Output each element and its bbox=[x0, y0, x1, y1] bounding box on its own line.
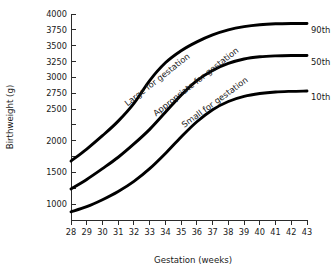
end-label-50th: 50th bbox=[311, 57, 330, 67]
end-label-90th: 90th bbox=[311, 25, 330, 35]
x-tick-label-31: 31 bbox=[113, 227, 123, 237]
x-axis-tick-labels: 28293031323334353637383940414243 bbox=[66, 227, 312, 237]
x-tick-label-35: 35 bbox=[176, 227, 186, 237]
x-tick-label-32: 32 bbox=[129, 227, 139, 237]
y-tick-label-1500: 1500 bbox=[46, 167, 67, 177]
y-tick-label-2750: 2750 bbox=[46, 88, 67, 98]
x-axis-tick-marks bbox=[71, 220, 307, 225]
x-tick-label-41: 41 bbox=[270, 227, 280, 237]
x-tick-label-38: 38 bbox=[223, 227, 233, 237]
x-tick-label-29: 29 bbox=[82, 227, 92, 237]
x-tick-label-34: 34 bbox=[160, 227, 170, 237]
y-tick-label-3250: 3250 bbox=[46, 57, 67, 67]
x-tick-label-43: 43 bbox=[302, 227, 312, 237]
x-tick-label-40: 40 bbox=[255, 227, 265, 237]
curve-10th bbox=[71, 91, 307, 212]
y-tick-label-1000: 1000 bbox=[46, 199, 67, 209]
y-axis-tick-labels: 1000150020002500275030003250350037504000 bbox=[46, 9, 67, 209]
y-tick-label-2500: 2500 bbox=[46, 104, 67, 114]
y-tick-label-4000: 4000 bbox=[46, 9, 67, 19]
x-tick-label-33: 33 bbox=[144, 227, 154, 237]
curve-annotations: Large for gestationAppropriate for gesta… bbox=[123, 45, 250, 129]
end-label-10th: 10th bbox=[311, 92, 330, 102]
x-tick-label-39: 39 bbox=[239, 227, 249, 237]
x-tick-label-30: 30 bbox=[97, 227, 107, 237]
x-tick-label-37: 37 bbox=[207, 227, 217, 237]
y-tick-label-3750: 3750 bbox=[46, 25, 67, 35]
chart-canvas: 1000150020002500275030003250350037504000… bbox=[0, 0, 332, 269]
x-axis-title: Gestation (weeks) bbox=[154, 255, 232, 265]
x-tick-label-42: 42 bbox=[286, 227, 296, 237]
y-axis-title: Birthweight (g) bbox=[5, 85, 15, 150]
x-tick-label-36: 36 bbox=[192, 227, 202, 237]
y-axis-tick-marks bbox=[71, 14, 76, 204]
annotation-50th: Appropriate for gestation bbox=[151, 45, 240, 118]
percentile-end-labels: 90th50th10th bbox=[311, 25, 330, 103]
annotation-90th: Large for gestation bbox=[123, 51, 192, 108]
y-tick-label-2000: 2000 bbox=[46, 136, 67, 146]
y-tick-label-3500: 3500 bbox=[46, 41, 67, 51]
x-tick-label-28: 28 bbox=[66, 227, 76, 237]
y-tick-label-3000: 3000 bbox=[46, 72, 67, 82]
birthweight-percentile-chart: 1000150020002500275030003250350037504000… bbox=[0, 0, 332, 269]
